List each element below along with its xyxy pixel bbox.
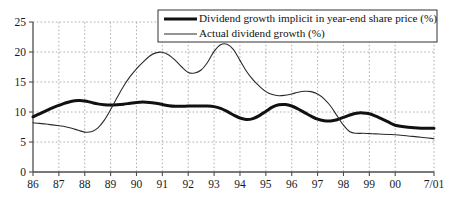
y-axis-tick-label: 15 bbox=[15, 76, 27, 88]
y-axis-tick-label: 10 bbox=[15, 106, 27, 118]
x-axis-tick-label: 87 bbox=[53, 178, 65, 190]
x-axis-tick-label: 97 bbox=[312, 178, 324, 190]
x-axis-tick-label: 93 bbox=[208, 178, 220, 190]
x-axis-tick-label: 88 bbox=[79, 178, 91, 190]
x-axis-tick-label: 99 bbox=[364, 178, 376, 190]
y-axis-tick-label: 25 bbox=[15, 16, 27, 28]
dividend-growth-line-chart: 0510152025 86878889909192939495969798990… bbox=[0, 0, 457, 200]
x-axis-tick-label: 92 bbox=[182, 178, 194, 190]
chart-legend[interactable]: Dividend growth implicit in year-end sha… bbox=[158, 10, 437, 42]
y-axis-tick-label: 5 bbox=[20, 136, 26, 148]
legend-label-1[interactable]: Actual dividend growth (%) bbox=[199, 27, 325, 40]
x-axis-tick-label: 86 bbox=[27, 178, 39, 190]
y-axis-tick-label: 0 bbox=[20, 166, 26, 178]
x-axis-tick-label: 98 bbox=[338, 178, 350, 190]
x-axis-tick-label: 89 bbox=[105, 178, 117, 190]
x-axis-tick-label: 96 bbox=[286, 178, 298, 190]
legend-label-0[interactable]: Dividend growth implicit in year-end sha… bbox=[199, 12, 437, 25]
x-axis-tick-label: 95 bbox=[260, 178, 272, 190]
x-axis-tick-label: 91 bbox=[157, 178, 169, 190]
chart-container: 0510152025 86878889909192939495969798990… bbox=[0, 0, 457, 200]
x-axis-tick-label: 00 bbox=[389, 178, 401, 190]
x-axis-tick-label: 7/01 bbox=[424, 178, 445, 190]
y-axis-tick-label: 20 bbox=[15, 46, 27, 58]
x-axis-tick-label: 94 bbox=[234, 178, 246, 190]
x-axis-tick-label: 90 bbox=[131, 178, 143, 190]
